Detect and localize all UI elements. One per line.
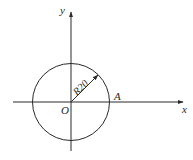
- radius-label: R20: [70, 77, 91, 98]
- coordinate-diagram: R20 y x O A: [0, 0, 193, 160]
- x-axis-label: x: [181, 103, 187, 115]
- origin-label: O: [61, 104, 69, 116]
- y-axis-label: y: [59, 4, 65, 16]
- point-a-label: A: [113, 90, 121, 102]
